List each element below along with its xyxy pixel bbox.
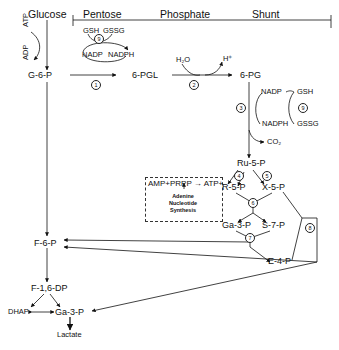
r5p-label: R-5-P [222, 182, 246, 192]
amp-prpp-equation: AMP+PRPP → ATP+ [148, 180, 223, 188]
s7p-label: S-7-P [262, 220, 285, 230]
nadp-right-label: NADP [261, 88, 282, 96]
step-6-icon: 6 [248, 198, 258, 208]
glucose-label: Glucose [28, 8, 67, 20]
step-8-icon: 8 [305, 223, 315, 233]
step-4-icon: 4 [234, 171, 244, 181]
co2-label: CO₂ [267, 138, 281, 146]
ru5p-label: Ru-5-P [237, 158, 266, 168]
g6p-label: G-6-P [28, 70, 52, 80]
gsh-right-label: GSH [297, 88, 313, 96]
step-1-icon: 1 [91, 80, 101, 90]
f16dp-label: F-1,6-DP [31, 283, 68, 293]
header-shunt: Shunt [252, 8, 279, 20]
adenine-line3: Synthesis [145, 207, 221, 214]
pathway-arrows [0, 0, 339, 350]
6pgl-label: 6-PGL [132, 70, 158, 80]
adenine-line1: Adenine [145, 193, 221, 200]
nadph-top-label: NADPH [108, 51, 134, 59]
nadph-right-label: NADPH [262, 120, 288, 128]
6pg-label: 6-PG [240, 70, 261, 80]
adp-label: ADP [22, 45, 30, 60]
header-phosphate: Phosphate [160, 8, 210, 20]
step-2-icon: 2 [189, 80, 199, 90]
step-9-top-icon: 9 [94, 34, 104, 44]
ga3p-glycolysis-label: Ga-3-P [55, 307, 84, 317]
step-9-right-icon: 9 [298, 103, 308, 113]
e4p-label: E-4-P [268, 256, 291, 266]
dhap-label: DHAP [8, 308, 29, 316]
nadp-top-label: NADP [82, 51, 103, 59]
step-7-icon: 7 [245, 233, 255, 243]
f6p-label: F-6-P [34, 238, 57, 248]
ga3p-shunt-label: Ga-3-P [222, 220, 251, 230]
h-plus-label: H⁺ [223, 55, 232, 63]
lactate-label: Lactate [57, 331, 82, 339]
gssg-top-label: GSSG [103, 27, 125, 35]
adenine-line2: Nucleotide [145, 200, 221, 207]
h2o-label: H₂O [176, 56, 190, 64]
x5p-label: X-5-P [262, 182, 285, 192]
atp-label: ATP [22, 13, 30, 27]
step-3-icon: 3 [236, 103, 246, 113]
step-5-icon: 5 [262, 171, 272, 181]
gssg-right-label: GSSG [297, 120, 319, 128]
header-pentose: Pentose [83, 8, 122, 20]
